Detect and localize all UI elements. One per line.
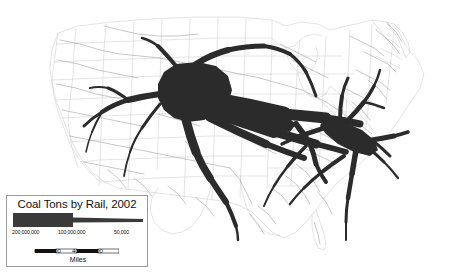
distance-tick-1: 200 <box>51 248 61 254</box>
distance-units-label: Miles <box>7 256 149 263</box>
coal-rail-map-screenshot: Coal Tons by Rail, 2002 200,000,000 100,… <box>0 0 450 274</box>
distance-scale-bar <box>35 241 119 248</box>
legend-tonnage-label-mid: 100,000,000 <box>58 228 85 235</box>
distance-tick-2: 400 <box>72 248 82 254</box>
legend-tonnage-label-low: 50,000 <box>114 228 129 235</box>
legend-wedge-swatch <box>13 213 143 227</box>
distance-tick-3: 600 <box>93 248 103 254</box>
legend-title: Coal Tons by Rail, 2002 <box>7 198 147 210</box>
distance-tick-0: 0 <box>34 248 37 254</box>
legend-tonnage-labels: 200,000,000 100,000,000 50,000 <box>7 228 149 238</box>
legend-tonnage-label-high: 200,000,000 <box>12 228 39 235</box>
legend-wedge-shape <box>13 213 143 227</box>
map-legend: Coal Tons by Rail, 2002 200,000,000 100,… <box>6 195 148 267</box>
